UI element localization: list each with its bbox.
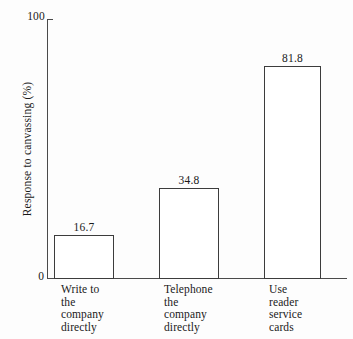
y-axis-tick-100 — [47, 19, 53, 20]
bar-value-label: 16.7 — [54, 221, 114, 234]
bar-reader-service-cards — [264, 66, 321, 279]
bar-chart-figure: 100 0 Response to canvassing (%) 16.7 34… — [0, 0, 353, 339]
x-axis-category-label: Write to the company directly — [61, 283, 104, 333]
y-axis-tick-label-100: 100 — [18, 10, 45, 23]
x-axis-category-label: Telephone the company directly — [164, 283, 213, 333]
y-axis-title: Response to canvassing (%) — [21, 49, 33, 249]
bar-value-label: 81.8 — [264, 52, 321, 65]
y-axis-line — [47, 19, 48, 279]
bar-value-label: 34.8 — [159, 174, 219, 187]
bar-write-to-company — [54, 235, 114, 279]
bar-telephone-company — [159, 188, 219, 279]
y-axis-tick-label-0: 0 — [18, 270, 44, 283]
x-axis-category-label: Use reader service cards — [269, 283, 302, 333]
